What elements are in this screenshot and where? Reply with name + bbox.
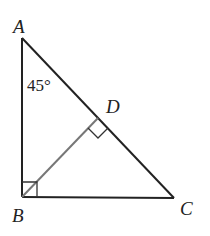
triangle-diagram: A D B C 45° — [0, 0, 210, 236]
label-c: C — [180, 198, 193, 219]
segment-bc — [22, 197, 174, 198]
label-b: B — [12, 205, 24, 226]
right-angle-marker-d — [88, 128, 108, 138]
segment-bd — [22, 118, 98, 197]
label-d: D — [105, 96, 120, 117]
angle-label-a: 45° — [27, 76, 51, 95]
label-a: A — [11, 16, 25, 37]
diagram-svg: A D B C 45° — [0, 0, 210, 236]
